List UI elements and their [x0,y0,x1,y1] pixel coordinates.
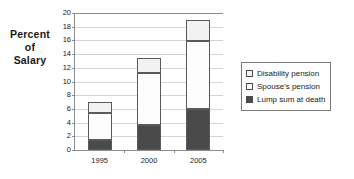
legend-item[interactable]: Lump sum at death [246,93,325,106]
y-axis-title-line-2: of [2,41,58,54]
legend-swatch-icon [246,83,253,90]
x-axis-tick-label: 1995 [91,156,108,165]
legend-item-label: Spouse's pension [257,82,320,91]
x-axis-tick-mark [174,150,175,153]
bar-series-container [75,13,223,150]
bar-segment-spouses-pension [186,41,210,109]
bar-segment-lump-sum-at-death [137,125,161,150]
bar-segment-lump-sum-at-death [186,109,210,150]
x-axis-tick-mark [124,150,125,153]
legend-item[interactable]: Spouse's pension [246,80,325,93]
y-axis-title: Percent of Salary [2,28,58,67]
y-axis-title-line-3: Salary [2,54,58,67]
bar-segment-disability-pension [186,20,210,41]
bar-segment-spouses-pension [137,73,161,124]
x-axis-tick-label: 2005 [190,156,207,165]
x-axis-tick-mark [223,150,224,153]
legend-item-label: Lump sum at death [257,95,325,104]
chart-legend: Disability pensionSpouse's pensionLump s… [241,62,331,111]
bar-segment-disability-pension [137,58,161,74]
bar-segment-spouses-pension [88,113,112,140]
legend-swatch-icon [246,70,253,77]
legend-item-label: Disability pension [257,69,319,78]
y-axis-title-line-1: Percent [2,28,58,41]
bar-group-2000 [137,13,161,150]
bar-segment-lump-sum-at-death [88,140,112,150]
plot-area: 02468101214161820 199520002005 [74,13,223,151]
legend-swatch-icon [246,96,253,103]
stacked-bar-chart: Percent of Salary 02468101214161820 1995… [0,0,354,179]
y-axis-tick-mark [72,150,75,151]
bar-group-1995 [88,13,112,150]
legend-item[interactable]: Disability pension [246,67,325,80]
bar-segment-disability-pension [88,102,112,113]
x-axis-tick-label: 2000 [141,156,158,165]
bar-group-2005 [186,13,210,150]
